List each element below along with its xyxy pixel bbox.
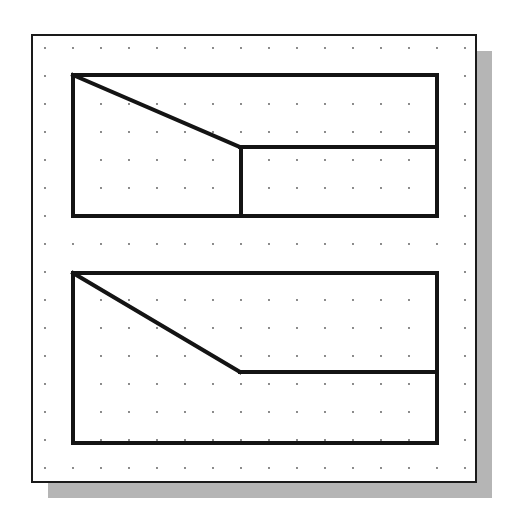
grid-dot xyxy=(324,299,326,301)
grid-dot xyxy=(44,187,46,189)
grid-dot xyxy=(184,159,186,161)
grid-dot xyxy=(184,411,186,413)
grid-dot xyxy=(156,131,158,133)
grid-dot xyxy=(184,383,186,385)
grid-dot xyxy=(380,355,382,357)
drawing-sheet xyxy=(32,35,476,482)
grid-dot xyxy=(324,159,326,161)
grid-dot xyxy=(156,187,158,189)
grid-dot xyxy=(352,187,354,189)
grid-dot xyxy=(44,439,46,441)
grid-dot xyxy=(352,299,354,301)
grid-dot xyxy=(408,243,410,245)
grid-dot xyxy=(268,187,270,189)
grid-dot xyxy=(380,159,382,161)
grid-dot xyxy=(324,327,326,329)
grid-dot xyxy=(240,355,242,357)
grid-dot xyxy=(268,103,270,105)
grid-dot xyxy=(100,187,102,189)
grid-dot xyxy=(324,467,326,469)
grid-dot xyxy=(184,467,186,469)
grid-dot xyxy=(240,47,242,49)
grid-dot xyxy=(212,299,214,301)
grid-dot xyxy=(240,467,242,469)
grid-dot xyxy=(268,327,270,329)
grid-dot xyxy=(352,467,354,469)
grid-dot xyxy=(212,103,214,105)
grid-dot xyxy=(156,299,158,301)
grid-dot xyxy=(296,159,298,161)
grid-dot xyxy=(128,355,130,357)
grid-dot xyxy=(268,159,270,161)
grid-dot xyxy=(44,131,46,133)
grid-dot xyxy=(296,187,298,189)
grid-dot xyxy=(44,467,46,469)
grid-dot xyxy=(240,411,242,413)
grid-dot xyxy=(296,467,298,469)
grid-dot xyxy=(156,159,158,161)
grid-dot xyxy=(128,327,130,329)
grid-dot xyxy=(464,103,466,105)
grid-dot xyxy=(44,47,46,49)
grid-dot xyxy=(408,327,410,329)
grid-dot xyxy=(156,103,158,105)
grid-dot xyxy=(268,383,270,385)
grid-dot xyxy=(352,103,354,105)
grid-dot xyxy=(184,187,186,189)
grid-dot xyxy=(100,103,102,105)
grid-dot xyxy=(184,439,186,441)
grid-dot xyxy=(464,47,466,49)
grid-dot xyxy=(324,439,326,441)
grid-dot xyxy=(324,131,326,133)
grid-dot xyxy=(100,47,102,49)
grid-dot xyxy=(100,327,102,329)
grid-dot xyxy=(184,327,186,329)
grid-dot xyxy=(408,299,410,301)
grid-dot xyxy=(380,103,382,105)
grid-dot xyxy=(268,439,270,441)
grid-dot xyxy=(380,327,382,329)
grid-dot xyxy=(156,355,158,357)
grid-dot xyxy=(408,467,410,469)
grid-dot xyxy=(408,355,410,357)
grid-dot xyxy=(268,243,270,245)
grid-dot xyxy=(268,467,270,469)
grid-dot xyxy=(380,411,382,413)
grid-dot xyxy=(240,439,242,441)
grid-dot xyxy=(128,159,130,161)
grid-dot xyxy=(128,47,130,49)
grid-dot xyxy=(324,187,326,189)
grid-dot xyxy=(100,383,102,385)
grid-dot xyxy=(296,299,298,301)
grid-dot xyxy=(464,467,466,469)
grid-dot xyxy=(352,439,354,441)
grid-dot xyxy=(44,411,46,413)
grid-dot xyxy=(44,271,46,273)
grid-dot xyxy=(240,327,242,329)
grid-dot xyxy=(268,47,270,49)
grid-dot xyxy=(184,355,186,357)
grid-dot xyxy=(296,47,298,49)
grid-dot xyxy=(100,131,102,133)
grid-dot xyxy=(156,327,158,329)
grid-dot xyxy=(296,131,298,133)
grid-dot xyxy=(212,243,214,245)
grid-dot xyxy=(268,355,270,357)
grid-dot xyxy=(268,299,270,301)
grid-dot xyxy=(72,467,74,469)
grid-dot xyxy=(100,467,102,469)
grid-dot xyxy=(128,243,130,245)
grid-dot xyxy=(240,103,242,105)
grid-dot xyxy=(408,131,410,133)
grid-dot xyxy=(464,299,466,301)
grid-dot xyxy=(352,327,354,329)
grid-dot xyxy=(296,355,298,357)
grid-dot xyxy=(380,131,382,133)
grid-dot xyxy=(464,271,466,273)
grid-dot xyxy=(44,215,46,217)
grid-dot xyxy=(184,103,186,105)
grid-dot xyxy=(352,243,354,245)
grid-dot xyxy=(296,243,298,245)
grid-dot xyxy=(380,439,382,441)
grid-dot xyxy=(436,47,438,49)
